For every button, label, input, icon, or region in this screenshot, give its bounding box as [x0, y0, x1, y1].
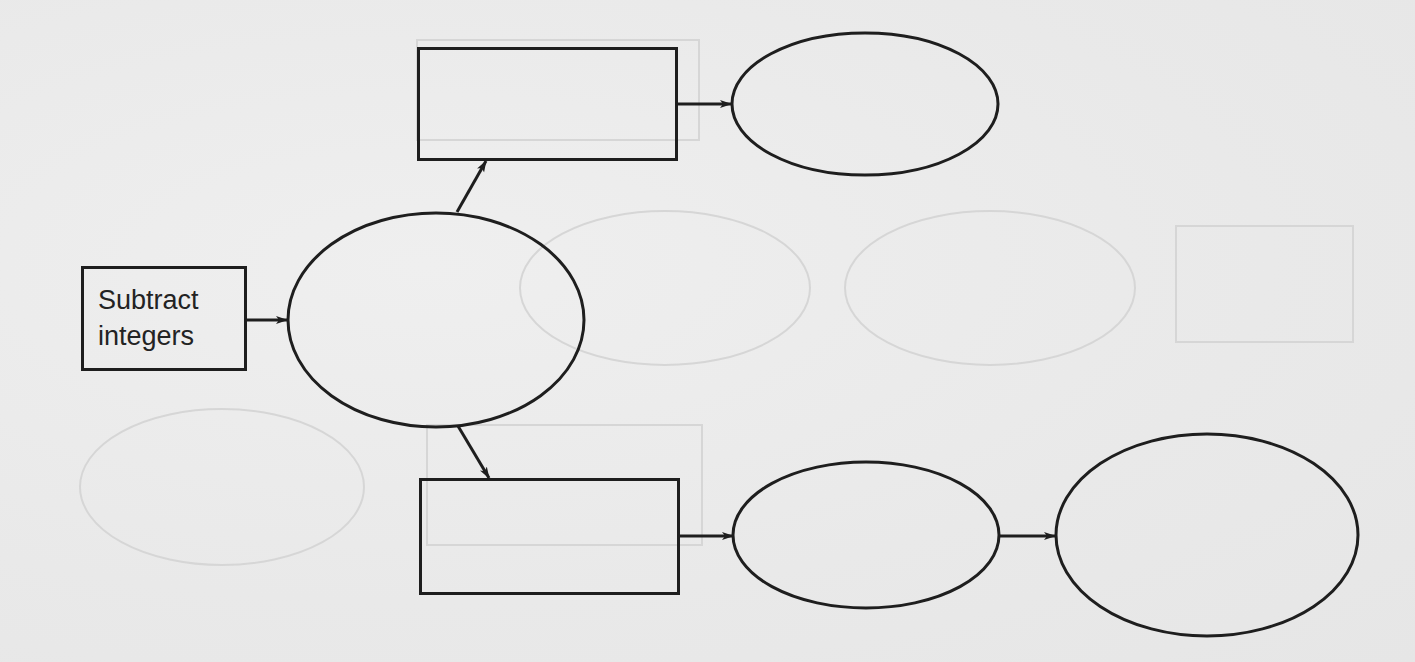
ghost-ellipse [845, 211, 1135, 365]
bottom-rectangle-blank [423, 482, 675, 590]
ghost-rectangle [1176, 226, 1353, 342]
arrow-center-to-bottom-rectangle [458, 426, 489, 478]
worksheet-page: Subtract integers [0, 0, 1415, 662]
label-line-2: integers [98, 318, 194, 354]
center-ellipse-blank [300, 225, 572, 415]
subtract-integers-label: Subtract integers [84, 269, 243, 367]
ghost-ellipse [80, 409, 364, 565]
arrow-center-to-top-rectangle [457, 161, 486, 212]
bottom-right-ellipse-blank [1070, 447, 1344, 623]
bottom-middle-ellipse-blank [747, 476, 985, 596]
label-line-1: Subtract [98, 282, 199, 318]
top-ellipse-blank [745, 45, 985, 163]
top-rectangle-blank [421, 51, 673, 156]
